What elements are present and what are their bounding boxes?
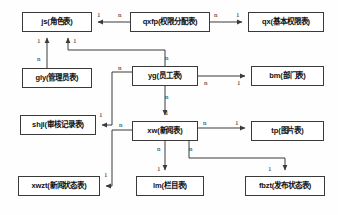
entity-box-gly[interactable]: gly(管理员表): [22, 68, 92, 88]
cardinality-yg-to-shjl: n: [118, 65, 122, 72]
entity-label-yg: yg(员工表): [148, 72, 182, 80]
entity-label-fbzt: fbzt(发布状态表): [259, 182, 311, 190]
entity-box-xwzt[interactable]: xwzt(新闻状态表): [18, 176, 100, 196]
er-diagram-canvas: js(角色表) qxfp(权限分配表) qx(基本权限表) gly(管理员表) …: [0, 0, 338, 215]
entity-box-tp[interactable]: tp(图片表): [251, 121, 324, 141]
cardinality-tp-from-xw: 1: [235, 120, 239, 127]
cardinality-js-from-gly: 1: [37, 38, 41, 45]
cardinality-xw-from-yg: 1: [165, 110, 169, 117]
cardinality-js-from-yg: 1: [73, 38, 77, 45]
cardinality-qx-from-qxfp: 1: [236, 12, 240, 19]
cardinality-shjl-from-yg: 1: [99, 112, 103, 119]
entity-box-xw[interactable]: xw(新闻表): [132, 121, 198, 141]
entity-box-yg[interactable]: yg(员工表): [132, 66, 198, 86]
entity-box-bm[interactable]: bm(部门表): [251, 66, 324, 86]
cardinality-xw-to-tp: n: [203, 120, 207, 127]
entity-box-js[interactable]: js(角色表): [22, 12, 92, 32]
entity-box-shjl[interactable]: shjl(审核记录表): [20, 115, 96, 135]
entity-box-fbzt[interactable]: fbzt(发布状态表): [245, 176, 325, 196]
entity-label-xw: xw(新闻表): [147, 127, 182, 135]
cardinality-xwzt-from-xw: 1: [104, 172, 108, 179]
connector-xw-xwzt: [106, 130, 132, 186]
cardinality-yg-to-js: n: [165, 55, 169, 62]
entity-label-lm: lm(栏目表): [153, 182, 187, 190]
entity-box-qxfp[interactable]: qxfp(权限分配表): [130, 12, 210, 32]
cardinality-fbzt-from-xw: 1: [268, 166, 272, 173]
cardinality-qxfp-to-js: n: [118, 12, 122, 19]
cardinality-js-from-qxfp: 1: [97, 12, 101, 19]
entity-box-qx[interactable]: qx(基本权限表): [248, 12, 324, 32]
entity-label-xwzt: xwzt(新闻状态表): [31, 182, 86, 190]
cardinality-xw-to-lm: n: [157, 146, 161, 153]
cardinality-xw-to-fbzt: n: [189, 146, 193, 153]
cardinality-yg-to-xw: n: [165, 94, 169, 101]
cardinality-lm-from-xw: 1: [157, 166, 161, 173]
cardinality-bm-from-yg: 1: [237, 80, 241, 87]
connector-yg-js: [68, 38, 165, 66]
entity-box-lm[interactable]: lm(栏目表): [136, 176, 204, 196]
entity-label-tp: tp(图片表): [271, 127, 303, 135]
entity-label-gly: gly(管理员表): [36, 74, 79, 82]
cardinality-yg-to-bm: n: [204, 80, 208, 87]
cardinality-qxfp-to-qx: n: [214, 12, 218, 19]
entity-label-shjl: shjl(审核记录表): [32, 121, 84, 129]
entity-label-qxfp: qxfp(权限分配表): [143, 18, 198, 26]
entity-label-qx: qx(基本权限表): [262, 18, 310, 26]
connector-yg-shjl: [102, 72, 132, 125]
cardinality-xw-to-xwzt: n: [119, 122, 123, 129]
entity-label-bm: bm(部门表): [269, 72, 306, 80]
cardinality-gly-to-js: n: [37, 56, 41, 63]
entity-label-js: js(角色表): [41, 18, 73, 26]
